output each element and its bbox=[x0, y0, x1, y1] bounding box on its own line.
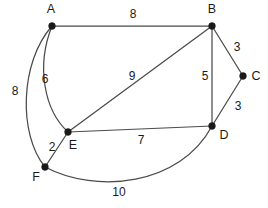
edge-e-d bbox=[68, 126, 212, 132]
edge-weight-a-f: 8 bbox=[12, 84, 19, 98]
edge-weight-e-d: 7 bbox=[138, 133, 145, 147]
edge-weight-b-c: 3 bbox=[234, 40, 241, 54]
edge-weight-a-e: 6 bbox=[42, 72, 49, 86]
edge-weight-c-d: 3 bbox=[235, 99, 242, 113]
node-b bbox=[209, 23, 216, 30]
edge-weight-f-d: 10 bbox=[112, 185, 126, 199]
node-d bbox=[209, 123, 216, 130]
edge-weight-a-b: 8 bbox=[130, 7, 137, 21]
graph-canvas: 86835937210 ABCDEF bbox=[0, 0, 268, 208]
node-label-c: C bbox=[251, 69, 260, 83]
node-a bbox=[49, 23, 56, 30]
node-label-d: D bbox=[219, 128, 228, 142]
node-label-b: B bbox=[208, 2, 216, 16]
edges-layer bbox=[26, 26, 243, 182]
node-e bbox=[65, 129, 72, 136]
node-c bbox=[240, 73, 247, 80]
node-label-e: E bbox=[69, 138, 77, 152]
node-labels-layer: ABCDEF bbox=[32, 2, 260, 184]
node-label-a: A bbox=[47, 2, 56, 16]
edge-weight-e-f: 2 bbox=[49, 140, 56, 154]
edge-weight-b-d: 5 bbox=[202, 69, 209, 83]
node-label-f: F bbox=[32, 170, 40, 184]
edge-b-e bbox=[68, 26, 212, 132]
node-f bbox=[42, 164, 49, 171]
weighted-graph-figure: 86835937210 ABCDEF bbox=[0, 0, 268, 208]
edge-weight-b-e: 9 bbox=[129, 69, 136, 83]
